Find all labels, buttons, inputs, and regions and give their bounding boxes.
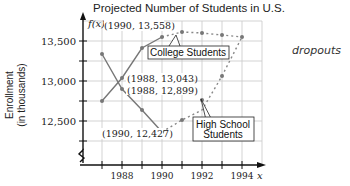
annotation-1990-college: (1990, 13,558) — [104, 20, 175, 31]
x-tick-1988: 1988 — [111, 171, 134, 181]
callout-hs-text-2: Students — [203, 129, 242, 140]
y-tick-12500: 12,500 — [41, 116, 76, 127]
y-axis-arrow — [80, 12, 86, 20]
annotation-1990-hs: (1990, 12,427) — [102, 128, 173, 139]
x-axis-label: x — [257, 170, 263, 181]
y-tick-13000: 13,000 — [41, 76, 76, 87]
x-tick-1994: 1994 — [231, 171, 254, 181]
x-tick-1992: 1992 — [191, 171, 214, 181]
handwritten-note: dropouts — [292, 44, 341, 57]
x-tick-1990: 1990 — [151, 171, 174, 181]
annotation-1988-college: (1988, 13,043) — [127, 73, 198, 84]
fx-label: f(x) — [87, 18, 105, 29]
y-tick-13500: 13,500 — [41, 36, 76, 47]
chart-plot: 13,500 13,000 12,500 1988 1990 1992 1994… — [0, 0, 350, 186]
x-axis-arrow — [257, 162, 266, 168]
callout-college-text: College Students — [150, 47, 226, 58]
annotation-1988-hs: (1988, 12,899) — [127, 85, 198, 96]
